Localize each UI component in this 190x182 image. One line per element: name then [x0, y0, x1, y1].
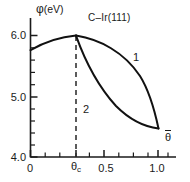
chart-title: C–Ir(111) [88, 13, 131, 23]
y-major-ticks [31, 36, 38, 158]
x-tick-label-0: 0 [24, 163, 36, 174]
y-tick-label-6: 6.0 [0, 30, 26, 41]
x-tick-label-0p5: 0.5 [94, 163, 118, 174]
curve-annotation-2: 2 [83, 104, 89, 115]
y-tick-label-4: 4.0 [0, 152, 26, 163]
theta-subscript: c [77, 165, 81, 174]
phi-symbol: φ [36, 2, 44, 16]
y-tick-label-5: 5.0 [0, 92, 26, 103]
y-axis-unit: (eV) [44, 3, 64, 15]
plot-canvas [0, 0, 190, 182]
x-major-ticks [31, 150, 159, 157]
x-tick-label-theta-c: θc [62, 161, 90, 174]
x-tick-label-1p0: 1.0 [145, 163, 169, 174]
curve-annotation-1: 1 [133, 52, 139, 63]
x-axis-label: θ [165, 130, 171, 143]
curve-rising-branch [31, 36, 77, 51]
figure-container: φ(eV) C–Ir(111) θ 6.0 5.0 4.0 0 θc 0.5 1… [0, 0, 190, 182]
theta-bar-symbol: θ [165, 130, 171, 143]
y-axis-label: φ(eV) [36, 3, 64, 15]
